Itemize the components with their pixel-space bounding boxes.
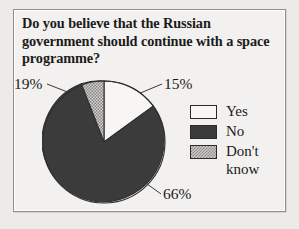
legend-swatch-yes (190, 105, 217, 119)
pie-label-yes: 15% (164, 76, 192, 92)
chart-legend: Yes No Don't know (190, 103, 282, 178)
legend-swatch-dont-know (190, 145, 217, 159)
legend-label-dont-know: Don't (226, 143, 259, 160)
legend-label-yes: Yes (226, 103, 248, 120)
legend-label-no: No (226, 123, 244, 140)
pie-chart-svg (42, 80, 166, 204)
pie-chart (42, 80, 166, 204)
chart-title: Do you believe that the Russian governme… (22, 15, 274, 68)
legend-swatch-no (190, 125, 217, 139)
legend-item-dont-know: Don't (190, 143, 282, 162)
legend-label-dont-know-line2: know (226, 161, 282, 178)
pie-label-dont-know: 19% (14, 76, 42, 92)
legend-item-no: No (190, 123, 282, 142)
chart-screenshot: Do you believe that the Russian governme… (0, 0, 299, 229)
pie-label-no: 66% (163, 186, 191, 202)
legend-item-yes: Yes (190, 103, 282, 122)
